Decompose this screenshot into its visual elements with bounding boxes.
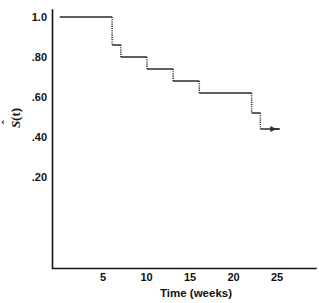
survival-curve-figure: 1.0 .80 .60 .40 .20 5 10 15 20 25 Time (… bbox=[0, 0, 319, 303]
censoring-arrow-head bbox=[270, 126, 276, 132]
y-tick-label-2: .80 bbox=[32, 51, 47, 63]
y-tick-label-5: .20 bbox=[32, 171, 47, 183]
y-axis-title-hat: ˆ bbox=[0, 119, 14, 124]
x-tick-label-4: 20 bbox=[227, 271, 239, 283]
step-horizontal-segments bbox=[60, 17, 280, 129]
step-vertical-drops bbox=[112, 17, 260, 129]
plot-canvas: 1.0 .80 .60 .40 .20 5 10 15 20 25 Time (… bbox=[0, 0, 319, 303]
y-axis-title: S(t) ˆ bbox=[0, 108, 23, 128]
x-tick-label-3: 15 bbox=[184, 271, 196, 283]
y-axis-title-suffix: (t) bbox=[8, 108, 23, 121]
axis-lines bbox=[53, 10, 317, 269]
y-tick-labels: 1.0 .80 .60 .40 .20 bbox=[32, 11, 47, 183]
y-tick-label-1: 1.0 bbox=[32, 11, 47, 23]
x-tick-label-1: 5 bbox=[100, 271, 106, 283]
y-tick-label-4: .40 bbox=[32, 131, 47, 143]
censoring-arrow bbox=[270, 126, 279, 132]
x-tick-label-2: 10 bbox=[140, 271, 152, 283]
x-axis-title: Time (weeks) bbox=[160, 287, 232, 299]
axes-group bbox=[53, 10, 317, 269]
x-tick-labels: 5 10 15 20 25 bbox=[100, 271, 283, 283]
x-tick-label-5: 25 bbox=[271, 271, 283, 283]
y-tick-label-3: .60 bbox=[32, 91, 47, 103]
